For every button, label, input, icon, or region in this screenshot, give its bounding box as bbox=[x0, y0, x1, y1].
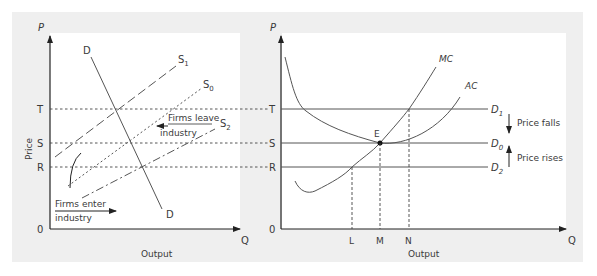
firms-leave-label-line1: Firms leave bbox=[168, 113, 220, 123]
demand-label-bottom: D bbox=[166, 209, 174, 220]
output-tick-L: L bbox=[349, 236, 354, 246]
output-tick-N: N bbox=[405, 236, 412, 246]
demand-label-top: D bbox=[83, 45, 91, 56]
firms-enter-label-line1: Firms enter bbox=[55, 199, 106, 209]
right-price-label-T: T bbox=[268, 104, 276, 115]
right-y-axis-label: P bbox=[270, 22, 277, 33]
left-price-label-T: T bbox=[36, 104, 44, 115]
ac-label: AC bbox=[464, 81, 478, 91]
firms-leave-label-line2: industry bbox=[160, 128, 198, 138]
left-price-label-S: S bbox=[37, 138, 43, 149]
right-origin-label: 0 bbox=[269, 224, 275, 235]
price-rises-label: Price rises bbox=[517, 153, 563, 163]
price-falls-label: Price falls bbox=[517, 118, 561, 128]
left-price-label-R: R bbox=[37, 162, 44, 173]
right-price-label-R: R bbox=[269, 162, 276, 173]
firms-enter-label-line2: industry bbox=[55, 213, 93, 223]
right-x-axis-label: Q bbox=[568, 235, 576, 246]
perfect-competition-diagram: P Q 0 Output Price T S R D D S1 S0 S2 Fi… bbox=[0, 0, 597, 276]
mc-label: MC bbox=[439, 54, 454, 64]
left-x-axis-label: Q bbox=[241, 235, 249, 246]
left-y-axis-title: Price bbox=[24, 138, 34, 160]
left-x-axis-title: Output bbox=[141, 249, 173, 259]
output-tick-M: M bbox=[376, 236, 384, 246]
left-y-axis-label: P bbox=[38, 22, 45, 33]
right-price-label-S: S bbox=[269, 138, 275, 149]
left-origin-label: 0 bbox=[37, 224, 43, 235]
equilibrium-label: E bbox=[374, 129, 380, 139]
right-x-axis-title: Output bbox=[408, 249, 440, 259]
right-plot-area bbox=[282, 33, 566, 229]
